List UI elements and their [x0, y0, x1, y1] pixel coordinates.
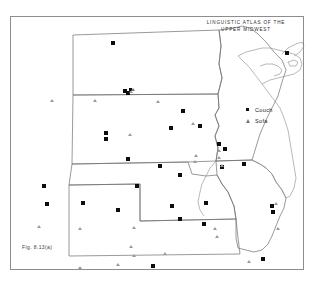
map-marker-couch: [45, 202, 48, 205]
map-marker-couch: [81, 201, 84, 204]
map-marker-couch: [42, 184, 45, 187]
map-marker-sofa: [78, 266, 82, 269]
legend-item-sofa: Sofa: [243, 116, 273, 125]
filled-square-icon: [243, 108, 252, 111]
map-marker-couch: [285, 51, 288, 54]
map-marker-sofa: [215, 235, 219, 238]
figure-caption: Fig. 8.13(a): [22, 244, 52, 250]
map-marker-sofa: [128, 133, 132, 136]
map-marker-couch: [202, 222, 205, 225]
legend-label-sofa: Sofa: [255, 118, 268, 124]
state-outline-iowa: [216, 160, 286, 252]
map-title-line-1: LINGUISTIC ATLAS OF THE: [207, 20, 286, 25]
river-border-missouri: [198, 161, 216, 216]
map-marker-couch: [242, 162, 245, 165]
map-marker-sofa: [156, 100, 160, 103]
map-marker-couch: [271, 210, 274, 213]
scan-top-cut-text: [6, 0, 156, 9]
map-marker-couch: [151, 264, 154, 267]
figure-page: LINGUISTIC ATLAS OF THE UPPER MIDWEST Co…: [0, 0, 316, 287]
map-marker-couch: [181, 109, 184, 112]
map-marker-couch: [204, 201, 207, 204]
map-marker-sofa: [116, 263, 120, 266]
map-marker-couch: [178, 173, 181, 176]
map-marker-sofa: [93, 99, 97, 102]
map-marker-sofa: [217, 156, 221, 159]
map-marker-couch: [223, 147, 226, 150]
map-marker-couch: [135, 184, 138, 187]
map-marker-couch-and-sofa: [129, 87, 135, 93]
map-marker-couch: [261, 257, 264, 260]
map-marker-sofa: [50, 99, 54, 102]
legend-label-couch: Couch: [255, 107, 273, 113]
map-marker-couch: [111, 41, 114, 44]
map-marker-sofa: [129, 245, 133, 248]
map-marker-sofa: [276, 227, 280, 230]
map-marker-sofa: [274, 202, 278, 205]
map-marker-sofa: [191, 122, 195, 125]
map-marker-sofa: [247, 260, 251, 263]
map-marker-sofa: [132, 254, 136, 257]
map-marker-couch: [158, 164, 161, 167]
legend-item-couch: Couch: [243, 105, 273, 114]
state-outline-kansas: [69, 184, 240, 256]
map-marker-sofa: [220, 164, 224, 167]
state-outline-wisconsin: [238, 56, 296, 198]
map-marker-sofa: [37, 225, 41, 228]
map-marker-sofa: [194, 154, 198, 157]
map-marker-sofa: [78, 227, 82, 230]
state-outline-nebraska: [69, 162, 236, 221]
map-marker-couch: [198, 124, 201, 127]
map-legend: Couch Sofa: [243, 105, 273, 127]
map-title: LINGUISTIC ATLAS OF THE UPPER MIDWEST: [196, 19, 296, 33]
map-marker-sofa: [213, 227, 217, 230]
map-marker-couch: [170, 204, 173, 207]
map-title-line-2: UPPER MIDWEST: [196, 26, 296, 33]
map-marker-sofa: [193, 160, 197, 163]
isle-royale: [288, 60, 298, 66]
map-marker-couch: [104, 137, 107, 140]
map-marker-couch: [217, 142, 220, 145]
map-marker-couch: [104, 131, 107, 134]
map-marker-couch: [178, 217, 181, 220]
triangle-icon: [243, 119, 252, 123]
map-marker-sofa: [163, 252, 167, 255]
map-marker-couch: [116, 208, 119, 211]
map-marker-couch: [126, 157, 129, 160]
map-marker-couch: [169, 126, 172, 129]
map-outline: [10, 16, 304, 270]
map-marker-sofa: [132, 226, 136, 229]
state-outline-north-dakota: [73, 30, 222, 95]
map-marker-sofa: [217, 149, 221, 152]
state-outline-minnesota: [215, 26, 286, 161]
lake-superior-inner-shore: [260, 64, 282, 76]
